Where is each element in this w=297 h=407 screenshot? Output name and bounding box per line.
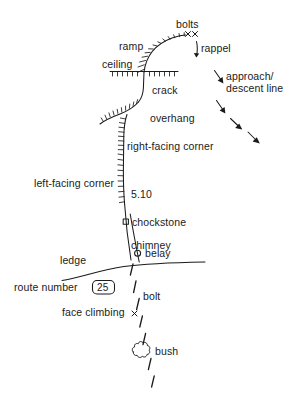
label-approach-descent-line: approach/ descent line [226, 70, 283, 95]
label-face-climbing: face climbing [62, 306, 125, 318]
bush-symbol [132, 342, 150, 358]
label-bush: bush [155, 345, 178, 357]
route-number-value: 25 [97, 282, 108, 294]
label-ceiling: ceiling [102, 58, 132, 70]
approach-arrow-3 [231, 119, 243, 130]
bolts-mark [186, 32, 198, 37]
label-overhang: overhang [150, 112, 195, 124]
label-ramp: ramp [119, 40, 143, 52]
label-ledge: ledge [60, 254, 86, 266]
approach-arrow-2 [217, 101, 226, 114]
label-chockstone: chockstone [132, 216, 186, 228]
label-belay: belay [145, 247, 171, 259]
label-rappel: rappel [201, 42, 231, 54]
label-right-facing-corner: right-facing corner [127, 140, 214, 152]
climbing-topo-diagram: bolts ramp rappel ceiling crack approach… [0, 0, 297, 407]
label-bolt: bolt [143, 290, 160, 302]
chimney-lines [125, 204, 140, 262]
bolt-mark [132, 311, 137, 316]
topo-line-art [0, 0, 297, 407]
rappel-arrow [194, 42, 199, 58]
overhang-line [100, 102, 139, 124]
route-dashed-line [130, 264, 154, 387]
label-crack: crack [152, 84, 178, 96]
crack-line [139, 72, 145, 102]
approach-arrow-1 [215, 71, 224, 84]
overhang-hatches [101, 100, 137, 122]
label-route-number: route number [14, 281, 78, 293]
label-left-facing-corner: left-facing corner [34, 177, 114, 189]
label-bolts: bolts [176, 18, 199, 30]
approach-arrow-4 [248, 132, 260, 144]
label-grade: 5.10 [131, 188, 152, 200]
